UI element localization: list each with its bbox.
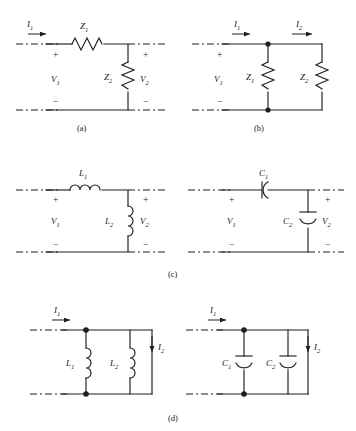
panel-b-sign-plus: + (217, 50, 222, 60)
panel-c-right-wire-top-right (268, 190, 308, 212)
panel-c-left-sign-plus-left: + (53, 195, 58, 205)
panel-d-left-label-l1: L1 (65, 358, 74, 370)
panel-d-right-label-i1: I1 (209, 305, 216, 317)
panel-c-right-label-v2: V2 (322, 216, 332, 228)
circuit-figure: I1 Z1 Z2 V1 V2 + − + − (a) (0, 0, 356, 431)
panel-d-right-label-c1: C1 (222, 358, 231, 370)
panel-d-caption: (d) (168, 413, 178, 423)
panel-b-label-z2: Z2 (300, 72, 309, 84)
panel-c-left-label-l1: L1 (78, 168, 87, 180)
panel-c-right-sign-minus-left: − (229, 240, 234, 250)
panel-a-wire-top-right (104, 44, 128, 62)
panel-b-sign-minus: − (217, 97, 222, 107)
panel-b-label-v1: V1 (214, 74, 223, 86)
panel-b-label-i1: I1 (233, 19, 240, 31)
panel-b-caption: (b) (254, 123, 264, 133)
inductor-shunt-l2 (130, 348, 135, 378)
panel-c-left-label-l2: L2 (104, 216, 114, 228)
panel-d-right-node-top (241, 327, 247, 333)
panel-c-right-sign-minus-right: − (325, 240, 330, 250)
panel-c-left-wire-top-right (102, 190, 128, 206)
panel-c-right: C1 C2 V1 V2 + − + − (188, 168, 344, 252)
panel-c-right-label-v1: V1 (227, 216, 236, 228)
capacitor-shunt-c1 (236, 356, 252, 368)
panel-b: I1 I2 Z1 Z2 V1 + − (b) (192, 19, 328, 133)
inductor-shunt-l1 (86, 348, 91, 378)
panel-a-sign-plus-left: + (53, 50, 58, 60)
panel-d-left: I1 I2 L1 L2 (30, 305, 165, 397)
panel-c-right-wire-bottom (222, 228, 308, 252)
panel-a-label-v2: V2 (140, 74, 150, 86)
panel-c-right-label-c1: C1 (259, 168, 268, 180)
capacitor-shunt-c2 (280, 356, 296, 368)
panel-c-left-sign-plus-right: + (143, 195, 148, 205)
panel-a-label-i1: I1 (26, 19, 33, 31)
panel-d-right: I1 I2 C1 C2 (186, 305, 321, 397)
panel-a-label-z1: Z1 (80, 21, 88, 33)
panel-c-left-label-v1: V1 (51, 216, 60, 228)
capacitor-series-c1 (262, 182, 268, 198)
panel-b-node-top (265, 41, 270, 46)
resistor-series-z1 (72, 38, 102, 50)
panel-d-right-label-i2: I2 (313, 342, 321, 354)
panel-c-left: L1 L2 V1 V2 + − + − (16, 168, 165, 252)
resistor-shunt-z2 (316, 62, 328, 89)
panel-a-label-v1: V1 (51, 74, 60, 86)
panel-b-label-z1: Z1 (246, 72, 254, 84)
panel-a-sign-minus-right: − (143, 97, 148, 107)
resistor-shunt-z1 (262, 62, 274, 89)
panel-b-label-i2: I2 (295, 19, 303, 31)
panel-c-caption: (c) (168, 269, 178, 279)
panel-d-left-label-l2: L2 (109, 358, 119, 370)
inductor-series-l1 (70, 185, 100, 190)
panel-a-sign-minus-left: − (53, 97, 58, 107)
panel-d-left-node-top (83, 327, 89, 333)
panel-c-right-sign-plus-left: + (229, 195, 234, 205)
panel-a-caption: (a) (77, 123, 87, 133)
panel-c-right-sign-plus-right: + (325, 195, 330, 205)
panel-a-label-z2: Z2 (104, 72, 113, 84)
panel-d-right-label-c2: C2 (266, 358, 276, 370)
panel-d-left-label-i2: I2 (157, 342, 165, 354)
panel-c-left-sign-minus-right: − (143, 240, 148, 250)
panel-c-right-label-c2: C2 (283, 216, 293, 228)
resistor-shunt-z2 (122, 62, 134, 89)
inductor-shunt-l2 (128, 206, 133, 236)
panel-b-node-bottom (265, 107, 270, 112)
panel-d-right-node-bottom (241, 391, 247, 397)
panel-a: I1 Z1 Z2 V1 V2 + − + − (a) (16, 19, 165, 133)
panel-a-sign-plus-right: + (143, 50, 148, 60)
panel-d-left-node-bottom (83, 391, 89, 397)
capacitor-shunt-c2 (300, 212, 316, 224)
panel-d-left-label-i1: I1 (53, 305, 60, 317)
panel-c-left-sign-minus-left: − (53, 240, 58, 250)
panel-c-left-label-v2: V2 (140, 216, 150, 228)
